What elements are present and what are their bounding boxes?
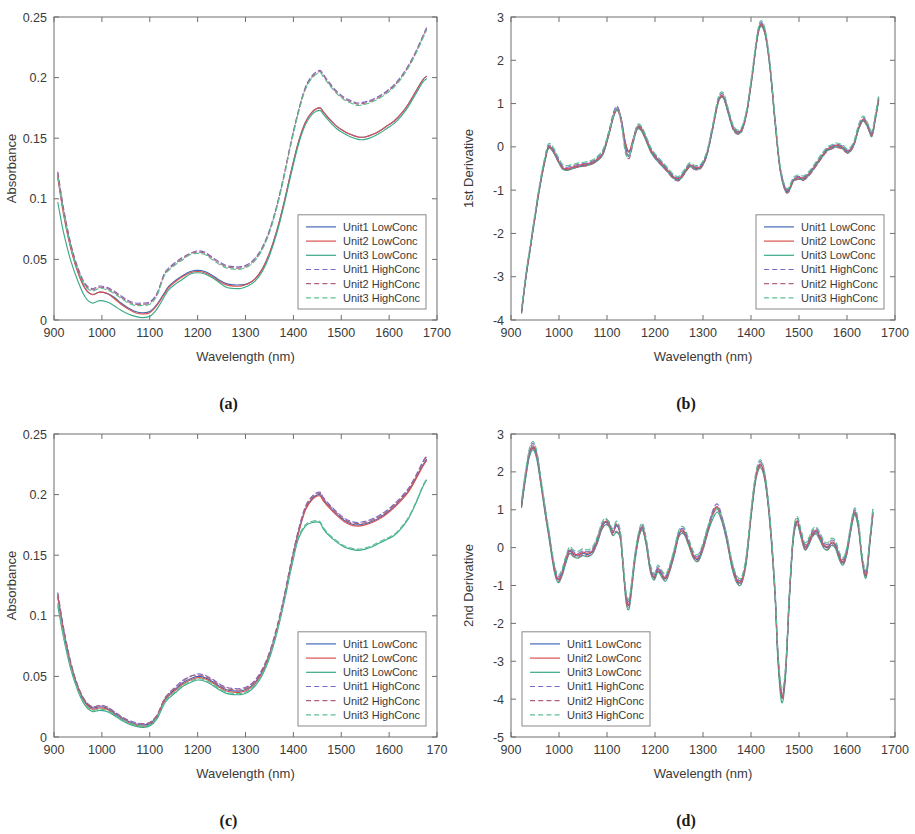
legend-label: Unit2 HighConc	[343, 695, 421, 707]
y-axis-title: 2nd Derivative	[461, 544, 476, 627]
x-tick-label: 1000	[545, 743, 573, 757]
y-tick-label: 0.15	[23, 549, 47, 563]
legend-label: Unit3 LowConc	[567, 666, 642, 678]
panel-c: 900100011001200130014001500160017000.050…	[0, 417, 457, 834]
x-tick-label: 1600	[833, 326, 861, 340]
y-tick-label: 3	[497, 11, 504, 25]
x-tick-label: 1600	[833, 743, 861, 757]
panel-a: 9001000110012001300140015001600170000.05…	[0, 0, 457, 417]
y-tick-label: 1	[497, 97, 504, 111]
legend-label: Unit1 LowConc	[567, 638, 642, 650]
x-tick-label: 1400	[279, 326, 307, 340]
x-tick-label: 170	[427, 743, 448, 757]
legend-label: Unit2 HighConc	[567, 695, 645, 707]
panel-d: 90010001100120013001400150016001700-5-4-…	[457, 417, 915, 834]
legend-label: Unit3 LowConc	[343, 249, 418, 261]
panel-c-plot: 900100011001200130014001500160017000.050…	[0, 417, 457, 799]
legend-label: Unit1 HighConc	[801, 263, 879, 275]
panel-a-caption: (a)	[0, 395, 457, 413]
legend-label: Unit1 HighConc	[567, 680, 645, 692]
x-tick-label: 1000	[88, 743, 116, 757]
x-tick-label: 1500	[327, 743, 355, 757]
legend: Unit1 LowConcUnit2 LowConcUnit3 LowConcU…	[298, 632, 426, 726]
x-axis-title: Wavelength (nm)	[654, 349, 753, 364]
x-tick-label: 1100	[136, 326, 163, 340]
panel-c-caption: (c)	[0, 812, 457, 830]
x-tick-label: 1700	[423, 326, 451, 340]
y-tick-label: 0	[40, 731, 47, 745]
legend-label: Unit3 LowConc	[343, 666, 418, 678]
y-tick-label: 0.1	[30, 192, 47, 206]
x-tick-label: 1300	[232, 326, 260, 340]
x-tick-label: 1200	[184, 743, 212, 757]
legend-label: Unit3 HighConc	[567, 709, 645, 721]
legend: Unit1 LowConcUnit2 LowConcUnit3 LowConcU…	[522, 632, 650, 726]
x-tick-label: 1100	[594, 326, 621, 340]
legend-label: Unit1 HighConc	[343, 680, 421, 692]
x-tick-label: 900	[501, 326, 522, 340]
y-tick-label: -3	[493, 655, 504, 669]
x-tick-label: 1300	[689, 326, 717, 340]
y-tick-label: -4	[493, 693, 504, 707]
y-tick-label: -2	[493, 227, 504, 241]
x-tick-label: 1200	[641, 326, 669, 340]
y-tick-label: -4	[493, 314, 504, 328]
y-tick-label: 0.25	[23, 11, 47, 25]
legend: Unit1 LowConcUnit2 LowConcUnit3 LowConcU…	[298, 215, 426, 309]
x-axis-title: Wavelength (nm)	[196, 766, 295, 781]
x-tick-label: 1600	[375, 743, 403, 757]
y-tick-label: 0.1	[30, 609, 47, 623]
x-axis-title: Wavelength (nm)	[196, 349, 295, 364]
x-tick-label: 1600	[375, 326, 403, 340]
x-tick-label: 1500	[785, 326, 813, 340]
y-tick-label: -1	[493, 579, 504, 593]
x-tick-label: 900	[44, 326, 65, 340]
y-tick-label: -5	[493, 731, 504, 745]
y-tick-label: 0.25	[23, 428, 47, 442]
x-tick-label: 1000	[88, 326, 116, 340]
y-axis-title: Absorbance	[4, 551, 19, 620]
x-tick-label: 900	[44, 743, 65, 757]
x-tick-label: 1400	[737, 743, 765, 757]
legend-label: Unit3 HighConc	[343, 292, 421, 304]
y-axis-title: 1st Derivative	[461, 129, 476, 208]
figure-grid: 9001000110012001300140015001600170000.05…	[0, 0, 915, 834]
legend-label: Unit2 HighConc	[343, 278, 421, 290]
y-tick-label: 0	[497, 541, 504, 555]
y-tick-label: 1	[497, 503, 504, 517]
y-axis-title: Absorbance	[4, 134, 19, 203]
panel-b-plot: 90010001100120013001400150016001700-4-3-…	[457, 0, 915, 382]
y-tick-label: 0.2	[30, 488, 47, 502]
x-tick-label: 1100	[136, 743, 163, 757]
y-tick-label: 0	[497, 140, 504, 154]
x-tick-label: 1200	[184, 326, 212, 340]
legend-label: Unit1 LowConc	[343, 638, 418, 650]
legend-label: Unit2 LowConc	[801, 235, 876, 247]
legend-label: Unit2 LowConc	[343, 235, 418, 247]
y-tick-label: -2	[493, 617, 504, 631]
legend-label: Unit2 LowConc	[567, 652, 642, 664]
x-tick-label: 1500	[785, 743, 813, 757]
x-axis-title: Wavelength (nm)	[654, 766, 753, 781]
panel-b: 90010001100120013001400150016001700-4-3-…	[457, 0, 915, 417]
x-tick-label: 900	[501, 743, 522, 757]
y-tick-label: 0.05	[23, 670, 47, 684]
panel-b-caption: (b)	[457, 395, 915, 413]
y-tick-label: -1	[493, 184, 504, 198]
legend-label: Unit1 LowConc	[801, 221, 876, 233]
y-tick-label: 0	[40, 314, 47, 328]
legend-label: Unit1 HighConc	[343, 263, 421, 275]
x-tick-label: 1700	[881, 743, 909, 757]
y-tick-label: 2	[497, 54, 504, 68]
y-tick-label: 0.05	[23, 253, 47, 267]
x-tick-label: 1500	[327, 326, 355, 340]
y-tick-label: 2	[497, 465, 504, 479]
panel-d-plot: 90010001100120013001400150016001700-5-4-…	[457, 417, 915, 799]
x-tick-label: 1300	[232, 743, 260, 757]
x-tick-label: 1200	[641, 743, 669, 757]
y-tick-label: -3	[493, 270, 504, 284]
x-tick-label: 1700	[881, 326, 909, 340]
legend-label: Unit3 HighConc	[801, 292, 879, 304]
legend-label: Unit1 LowConc	[343, 221, 418, 233]
legend-label: Unit2 LowConc	[343, 652, 418, 664]
